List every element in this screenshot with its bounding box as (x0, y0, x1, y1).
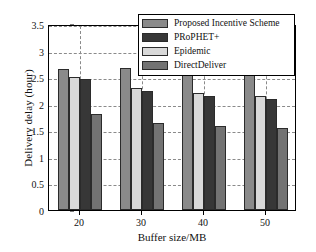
x-tick-label: 30 (136, 217, 146, 228)
legend-label: Epidemic (174, 46, 210, 57)
bar (182, 68, 193, 210)
bar (277, 128, 288, 210)
x-tick-mark (141, 211, 142, 215)
legend-item[interactable]: DirectDeliver (142, 59, 291, 72)
x-tick-mark (203, 211, 204, 215)
legend-swatch (142, 47, 168, 56)
legend-swatch (142, 61, 168, 70)
bar (91, 114, 102, 210)
bar (69, 77, 80, 210)
y-tick-label: 1 (39, 152, 44, 163)
bar (142, 91, 153, 210)
y-tick-label: 2.5 (32, 73, 45, 84)
bar (244, 67, 255, 210)
bar (131, 88, 142, 210)
bar (58, 69, 69, 210)
x-tick-mark (79, 211, 80, 215)
bar (204, 96, 215, 210)
x-axis-title: Buffer size/MB (48, 231, 296, 243)
chart-legend: Proposed Incentive SchemePRoPHET+Epidemi… (138, 14, 295, 76)
y-axis-tick-labels: 00.511.522.533.5 (22, 25, 44, 211)
bar (80, 79, 91, 210)
legend-label: PRoPHET+ (174, 32, 219, 43)
x-axis-tick-labels: 20304050 (48, 211, 296, 233)
y-tick-label: 1.5 (32, 126, 45, 137)
y-tick-label: 2 (39, 99, 44, 110)
bar (266, 99, 277, 210)
y-tick-label: 3.5 (32, 20, 45, 31)
y-tick-label: 0.5 (32, 179, 45, 190)
legend-swatch (142, 33, 168, 42)
legend-item[interactable]: Epidemic (142, 45, 291, 58)
x-tick-label: 50 (260, 217, 270, 228)
x-tick-label: 20 (74, 217, 84, 228)
legend-item[interactable]: PRoPHET+ (142, 31, 291, 44)
y-tick-label: 0 (39, 206, 44, 217)
bar (193, 93, 204, 210)
x-tick-mark (265, 211, 266, 215)
legend-label: DirectDeliver (174, 60, 226, 71)
legend-item[interactable]: Proposed Incentive Scheme (142, 17, 291, 30)
bar-chart-figure: Delivery delay (hour) 00.511.522.533.5 2… (0, 0, 316, 252)
bar (255, 96, 266, 210)
legend-label: Proposed Incentive Scheme (174, 18, 280, 29)
bar (120, 68, 131, 210)
bar (215, 126, 226, 210)
x-tick-label: 40 (198, 217, 208, 228)
bar (153, 123, 164, 210)
y-tick-label: 3 (39, 46, 44, 57)
legend-swatch (142, 19, 168, 28)
